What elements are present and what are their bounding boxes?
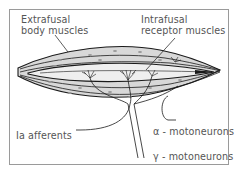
- ia-afferents-label: Ia afferents: [16, 130, 72, 141]
- extrafusal-label-line1: Extrafusal: [21, 14, 88, 25]
- alpha-motoneuron-fiber: [162, 96, 176, 120]
- extrafusal-leader-line: [55, 35, 68, 52]
- intrafusal-label: Intrafusal receptor muscles: [141, 14, 225, 36]
- nerve-trunk: [128, 86, 178, 158]
- gamma-motoneurons-label: γ - motoneurons: [153, 151, 233, 162]
- alpha-motoneurons-label: α - motoneurons: [153, 126, 234, 137]
- intrafusal-label-line1: Intrafusal: [141, 14, 225, 25]
- intrafusal-label-line2: receptor muscles: [141, 25, 225, 36]
- extrafusal-label-line2: body muscles: [21, 25, 88, 36]
- extrafusal-label: Extrafusal body muscles: [21, 14, 88, 36]
